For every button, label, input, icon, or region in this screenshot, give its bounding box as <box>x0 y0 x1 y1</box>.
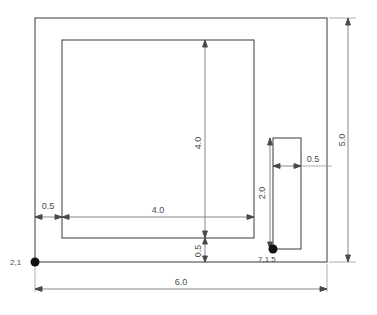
outer-rectangle <box>35 18 327 262</box>
dim-label-slot-width: 0.5 <box>307 154 320 164</box>
dim-label-inner-height: 4.0 <box>193 137 203 150</box>
arrow-offset-bottom-b <box>203 256 208 262</box>
labels-group: 2,1 7,1.5 6.0 4.0 0.5 0.5 5.0 4.0 0.5 2.… <box>10 134 347 287</box>
dim-label-outer-height: 5.0 <box>337 134 347 147</box>
geometry-group <box>35 18 327 262</box>
dim-label-offset-left: 0.5 <box>42 201 55 211</box>
arrow-slot-height-top <box>268 138 273 145</box>
arrow-outer-width-left <box>35 287 42 292</box>
arrow-offset-left-a <box>35 215 42 220</box>
vertex-markers-group <box>31 245 278 267</box>
arrow-slot-width-left <box>273 164 280 169</box>
slot-point-dot[interactable] <box>269 245 278 254</box>
technical-drawing: 2,1 7,1.5 6.0 4.0 0.5 0.5 5.0 4.0 0.5 2.… <box>0 0 377 315</box>
arrow-slot-width-right <box>294 164 301 169</box>
dim-label-offset-bottom: 0.5 <box>193 245 203 258</box>
dim-label-slot-height: 2.0 <box>257 187 267 200</box>
dim-label-outer-width: 6.0 <box>175 277 188 287</box>
arrow-outer-height-bottom <box>346 255 351 262</box>
arrow-outer-width-right <box>320 287 327 292</box>
origin-point-label: 2,1 <box>10 258 22 267</box>
cad-drawing-canvas: 2,1 7,1.5 6.0 4.0 0.5 0.5 5.0 4.0 0.5 2.… <box>0 0 377 315</box>
slot-point-label: 7,1.5 <box>258 255 276 264</box>
dim-label-inner-width: 4.0 <box>152 205 165 215</box>
slot-rectangle <box>273 138 301 249</box>
arrow-inner-width-right <box>247 215 254 220</box>
arrow-offset-bottom-a <box>203 238 208 244</box>
arrow-outer-height-top <box>346 18 351 25</box>
arrow-inner-height-top <box>203 40 208 47</box>
arrow-offset-left-b <box>55 215 62 220</box>
origin-point-dot[interactable] <box>31 258 40 267</box>
